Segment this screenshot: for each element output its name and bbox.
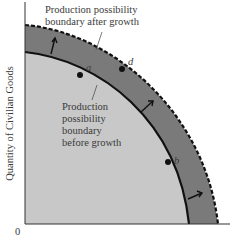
inner-curve-label-line3: boundary xyxy=(62,125,102,136)
point-a-label: a xyxy=(86,62,91,73)
ppf-diagram xyxy=(0,0,232,237)
point-d-marker xyxy=(119,66,125,72)
y-axis-label: Quantity of Civilian Goods xyxy=(4,59,15,189)
outer-curve-label-line1: Production possibility xyxy=(45,4,137,15)
point-b-label: b xyxy=(174,155,179,166)
point-b-marker xyxy=(165,159,171,165)
point-a-marker xyxy=(77,72,83,78)
inner-curve-label-line4: before growth xyxy=(62,137,121,148)
outer-curve-label-line2: boundary after growth xyxy=(45,16,139,27)
point-d-label: d xyxy=(128,56,133,67)
inner-curve-label-line2: possibility xyxy=(62,113,106,124)
outer-label-leader xyxy=(96,32,102,50)
inner-curve-label-line1: Production xyxy=(62,101,108,112)
origin-label: 0 xyxy=(15,226,20,237)
